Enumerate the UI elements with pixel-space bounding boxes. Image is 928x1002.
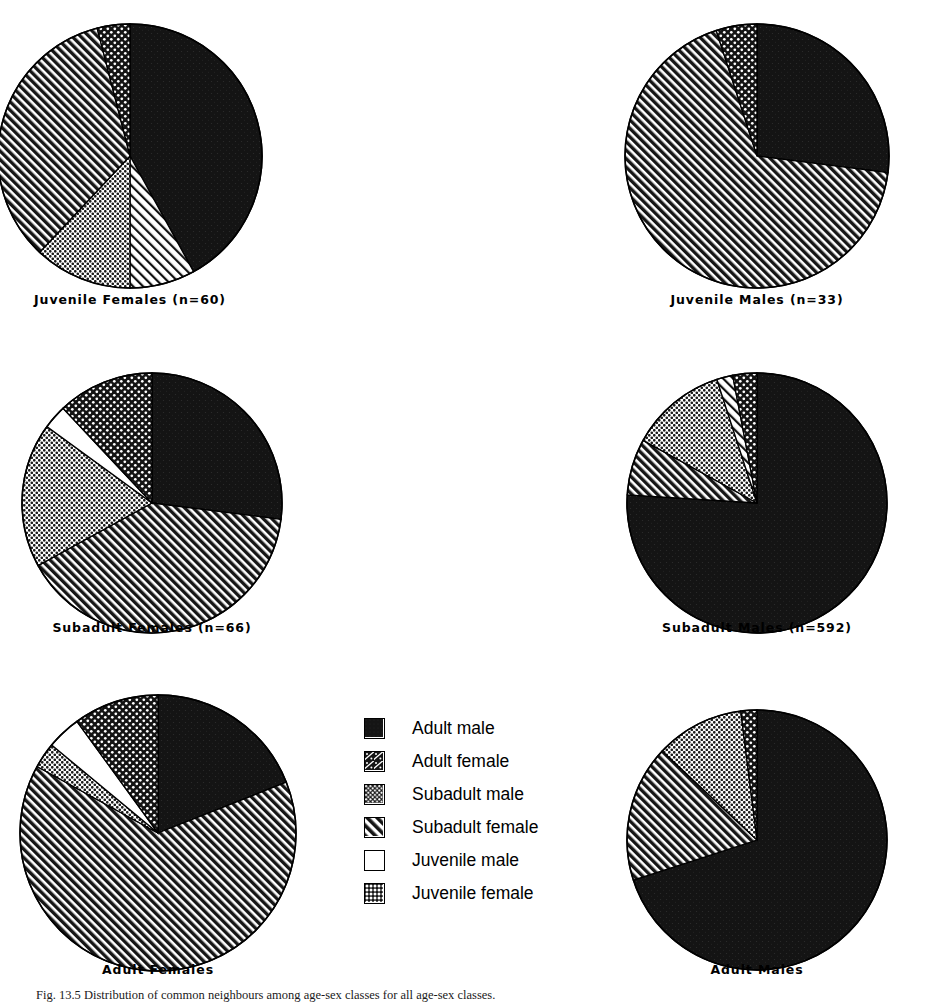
pie-label-juvenile-males: Juvenile Males (n=33)	[621, 292, 893, 307]
figure-root: Juvenile Females (n=60)Juvenile Males (n…	[0, 0, 928, 1002]
pie-chart-adult-males: Adult Males	[623, 706, 891, 974]
subadult-female-swatch	[364, 817, 385, 838]
legend-label: Juvenile female	[412, 883, 534, 904]
subadult-male-swatch	[364, 784, 385, 805]
legend-label: Subadult male	[412, 784, 524, 805]
pie-slices-subadult-females	[18, 369, 286, 637]
pie-label-adult-females: Adult Females	[16, 962, 300, 977]
juvenile-male-swatch	[364, 850, 385, 871]
legend-label: Subadult female	[412, 817, 538, 838]
pie-label-adult-males: Adult Males	[623, 962, 891, 977]
legend-label: Adult female	[412, 751, 509, 772]
legend-item-juvenile-male[interactable]: Juvenile male	[364, 844, 604, 877]
pie-slice-adult-male	[757, 24, 889, 173]
pie-chart-juvenile-females: Juvenile Females (n=60)	[0, 20, 266, 292]
pie-chart-adult-females: Adult Females	[16, 691, 300, 975]
legend-item-juvenile-female[interactable]: Juvenile female	[364, 877, 604, 910]
pie-label-subadult-males: Subadult Males (n=592)	[623, 620, 891, 635]
figure-caption: Fig. 13.5 Distribution of common neighbo…	[36, 988, 896, 1002]
adult-male-swatch	[364, 718, 385, 739]
pie-slices-adult-females	[16, 691, 300, 975]
adult-female-swatch	[364, 751, 385, 772]
pie-slices-adult-males	[623, 706, 891, 974]
pie-chart-subadult-males: Subadult Males (n=592)	[623, 369, 891, 637]
legend-item-subadult-female[interactable]: Subadult female	[364, 811, 604, 844]
pie-slices-subadult-males	[623, 369, 891, 637]
legend-item-subadult-male[interactable]: Subadult male	[364, 778, 604, 811]
pie-chart-juvenile-males: Juvenile Males (n=33)	[621, 20, 893, 292]
pie-label-juvenile-females: Juvenile Females (n=60)	[0, 292, 266, 307]
age-sex-class-legend: Adult maleAdult femaleSubadult maleSubad…	[364, 712, 604, 910]
pie-slices-juvenile-males	[621, 20, 893, 292]
juvenile-female-swatch	[364, 883, 385, 904]
pie-chart-subadult-females: Subadult Females (n=66)	[18, 369, 286, 637]
legend-item-adult-male[interactable]: Adult male	[364, 712, 604, 745]
legend-label: Adult male	[412, 718, 495, 739]
pie-slices-juvenile-females	[0, 20, 266, 292]
pie-label-subadult-females: Subadult Females (n=66)	[18, 620, 286, 635]
pie-slice-adult-male	[152, 373, 282, 519]
legend-item-adult-female[interactable]: Adult female	[364, 745, 604, 778]
legend-label: Juvenile male	[412, 850, 519, 871]
